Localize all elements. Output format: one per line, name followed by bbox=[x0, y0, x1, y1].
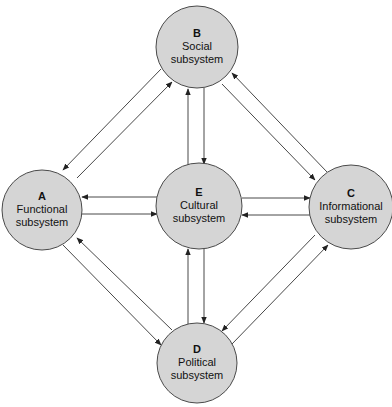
arrow-c-to-b bbox=[232, 73, 327, 172]
node-label-line2: subsystem bbox=[171, 53, 224, 65]
node-label-line1: Social bbox=[182, 40, 212, 52]
node-label-line1: Political bbox=[178, 356, 216, 368]
node-letter: E bbox=[195, 186, 202, 198]
arrow-b-to-a bbox=[63, 69, 161, 170]
node-letter: B bbox=[193, 27, 201, 39]
node-a: AFunctionalsubsystem bbox=[2, 170, 82, 250]
node-label-line2: subsystem bbox=[325, 213, 378, 225]
node-label-line2: subsystem bbox=[173, 212, 226, 224]
node-e: ECulturalsubsystem bbox=[156, 163, 242, 249]
node-letter: D bbox=[193, 343, 201, 355]
node-label-line1: Functional bbox=[17, 203, 68, 215]
arrow-b-to-c bbox=[222, 84, 315, 180]
node-d: DPoliticalsubsystem bbox=[157, 323, 237, 403]
arrow-c-to-d bbox=[222, 235, 315, 331]
arrow-d-to-a bbox=[77, 238, 172, 330]
subsystem-diagram: AFunctionalsubsystemBSocialsubsystemCInf… bbox=[0, 0, 392, 407]
node-letter: C bbox=[347, 187, 355, 199]
arrow-d-to-c bbox=[232, 245, 328, 344]
node-label-line1: Cultural bbox=[180, 199, 218, 211]
arrow-a-to-d bbox=[63, 245, 161, 345]
node-label-line1: Informational bbox=[319, 200, 383, 212]
node-c: CInformationalsubsystem bbox=[309, 165, 392, 249]
node-label-line2: subsystem bbox=[171, 369, 224, 381]
arrow-a-to-b bbox=[77, 82, 172, 178]
nodes: AFunctionalsubsystemBSocialsubsystemCInf… bbox=[2, 6, 392, 403]
node-letter: A bbox=[38, 190, 46, 202]
node-label-line2: subsystem bbox=[16, 216, 69, 228]
node-b: BSocialsubsystem bbox=[156, 6, 238, 88]
